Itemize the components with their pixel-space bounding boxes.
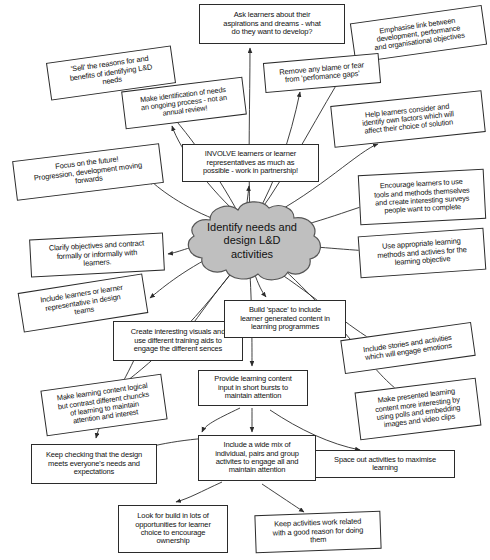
mindmap-node: Keep checking that the design meets ever…: [31, 444, 157, 484]
mindmap-node: Clarify objectives and contract formally…: [29, 233, 165, 278]
central-topic-cloud: Identify needs and design L&D activities: [176, 198, 328, 284]
mindmap-node: Provide learning content input in short …: [198, 370, 308, 406]
central-topic-label: Identify needs and design L&D activities: [192, 221, 312, 261]
mindmap-node: Ask learners about their aspirations and…: [199, 4, 345, 44]
mind-map-canvas: Identify needs and design L&D activities…: [0, 0, 490, 560]
mindmap-node: Encourage learners to use tools and meth…: [358, 169, 486, 226]
mindmap-node: Keep activities work related with a good…: [254, 511, 381, 553]
mindmap-node: Build 'space' to include learner generat…: [224, 300, 346, 338]
mindmap-node: Space out activities to maximise learnin…: [315, 450, 455, 478]
mindmap-node: Look for build in lots of opportunities …: [118, 505, 228, 553]
mindmap-node: INVOLVE learners or learner representati…: [182, 144, 319, 182]
mindmap-node: Use appropriate learning methods and act…: [358, 228, 487, 279]
mindmap-node: Include a wide mix of individual, pairs …: [198, 435, 316, 481]
